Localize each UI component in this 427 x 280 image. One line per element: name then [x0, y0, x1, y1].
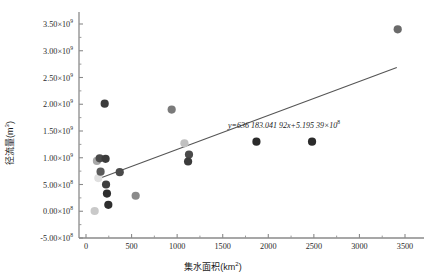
x-axis-tick-label: 1500 — [215, 243, 231, 251]
x-axis-tick-label: 0 — [84, 243, 88, 251]
data-point — [168, 106, 176, 114]
x-axis-tick-label: 1000 — [169, 243, 185, 251]
y-axis-unit-exponent: 3 — [4, 124, 10, 127]
y-tick-mantissa: 3.50×10 — [43, 20, 70, 29]
y-axis-title: 径流量(m3) — [4, 121, 15, 165]
y-tick-exponent: 8 — [70, 179, 73, 185]
data-point — [252, 138, 260, 146]
y-tick-exponent: 9 — [70, 45, 73, 51]
data-point — [102, 180, 110, 188]
x-axis-title-tail: ) — [239, 262, 242, 272]
x-axis-tick-label: 500 — [125, 243, 137, 251]
y-tick-exponent: 9 — [70, 125, 73, 131]
y-tick-exponent: 9 — [70, 18, 73, 24]
y-tick-mantissa: 3.00×10 — [43, 47, 70, 56]
data-point — [96, 168, 104, 176]
y-axis-title-text: 径流量(m — [5, 127, 15, 165]
y-axis-title-tail: ) — [5, 121, 15, 124]
regression-equation-label: y=636 183.041 92x+5.195 39×108 — [228, 120, 340, 130]
x-axis-title-text: 集水面积(km — [184, 262, 235, 272]
y-axis-tick-label: 3.50×109 — [0, 19, 73, 29]
y-tick-exponent: 8 — [70, 205, 73, 211]
y-axis-tick-label: 3.00×109 — [0, 46, 73, 56]
data-point — [184, 157, 192, 165]
y-tick-mantissa: 1.00×10 — [43, 154, 70, 163]
data-point — [116, 168, 124, 176]
y-tick-exponent: 9 — [70, 152, 73, 158]
regression-equation-text: y=636 183.041 92x+5.195 39×10 — [228, 121, 337, 130]
y-tick-exponent: 8 — [70, 232, 73, 238]
x-axis-tick-label: 3500 — [397, 243, 413, 251]
x-axis-tick-label: 2000 — [260, 243, 276, 251]
data-point — [91, 207, 99, 215]
data-point — [185, 150, 193, 158]
y-tick-exponent: 9 — [70, 72, 73, 78]
y-tick-mantissa: 1.50×10 — [43, 127, 70, 136]
tick-marks — [79, 24, 405, 238]
y-tick-mantissa: 5.00×10 — [43, 180, 70, 189]
y-tick-mantissa: -5.00×10 — [40, 234, 70, 243]
y-tick-mantissa: 2.50×10 — [43, 73, 70, 82]
y-axis-tick-label: 0.00×108 — [0, 206, 73, 216]
x-axis-title: 集水面积(km2) — [184, 261, 241, 272]
y-tick-mantissa: 0.00×10 — [43, 207, 70, 216]
y-axis-tick-label: -5.00×108 — [0, 233, 73, 243]
data-point — [103, 189, 111, 197]
x-axis-tick-label: 2500 — [306, 243, 322, 251]
chart-figure: -5.00×1080.00×1085.00×1081.00×1091.50×10… — [0, 0, 427, 280]
data-point — [101, 155, 109, 163]
x-axis-tick-label: 3000 — [351, 243, 367, 251]
y-axis-tick-label: 5.00×108 — [0, 180, 73, 190]
y-tick-mantissa: 2.00×10 — [43, 100, 70, 109]
regression-equation-exponent: 8 — [337, 119, 340, 125]
data-point — [132, 192, 140, 200]
data-point — [308, 138, 316, 146]
y-tick-exponent: 9 — [70, 98, 73, 104]
y-axis-tick-label: 2.00×109 — [0, 99, 73, 109]
data-point — [394, 25, 402, 33]
data-point — [101, 100, 109, 108]
data-point — [180, 139, 188, 147]
y-axis-tick-label: 2.50×109 — [0, 73, 73, 83]
data-point — [104, 201, 112, 209]
